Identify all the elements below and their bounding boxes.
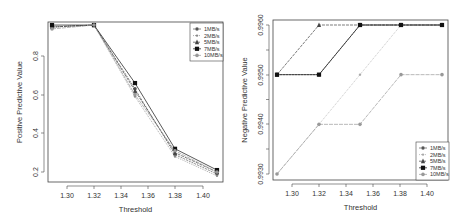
square-marker-icon xyxy=(440,23,444,27)
y-tick-label: 0.8 xyxy=(32,51,39,61)
square-marker-icon xyxy=(133,81,137,85)
y-tick-label: 0.9930 xyxy=(257,163,264,185)
legend-label: 10MB/s xyxy=(204,52,223,58)
legend-label: 5MB/s xyxy=(430,158,446,164)
dot-marker-icon xyxy=(216,175,218,177)
legend-label: 7MB/s xyxy=(204,46,220,52)
legend-label: 7MB/s xyxy=(430,165,446,171)
square-marker-icon xyxy=(195,47,199,51)
x-tick-label: 1.34 xyxy=(339,190,353,197)
dot-marker-icon xyxy=(359,73,361,75)
x-tick-label: 1.32 xyxy=(312,190,326,197)
x-tick-label: 1.30 xyxy=(60,192,74,199)
dot-marker-icon xyxy=(422,153,424,155)
circle-marker-icon xyxy=(421,173,425,177)
legend-label: 5MB/s xyxy=(204,39,220,45)
square-marker-icon xyxy=(421,166,425,170)
circle-marker-icon xyxy=(275,172,279,176)
legend-label: 1MB/s xyxy=(204,26,220,32)
chart-canvas: 1.301.321.341.361.381.400.20.40.60.8Thre… xyxy=(0,0,470,223)
x-tick-label: 1.38 xyxy=(168,192,182,199)
circle-marker-icon xyxy=(92,23,96,27)
square-marker-icon xyxy=(358,23,362,27)
y-tick-label: 0.6 xyxy=(32,90,39,100)
square-marker-icon xyxy=(275,73,279,77)
square-marker-icon xyxy=(317,73,321,77)
circle-marker-icon xyxy=(50,27,54,31)
npv-chart: 1.301.321.341.361.381.400.99300.99400.99… xyxy=(240,14,449,212)
dot-marker-icon xyxy=(196,34,198,36)
y-axis-title: Positive Predictive Value xyxy=(15,61,24,143)
y-tick-label: 0.9960 xyxy=(257,14,264,36)
square-marker-icon xyxy=(50,23,54,27)
series-line xyxy=(277,25,442,75)
x-tick-label: 1.30 xyxy=(285,190,299,197)
circle-marker-icon xyxy=(133,93,137,97)
circle-marker-icon xyxy=(399,73,403,77)
circle-marker-icon xyxy=(421,146,425,150)
square-marker-icon xyxy=(399,23,403,27)
legend-label: 2MB/s xyxy=(204,33,220,39)
dot-marker-icon xyxy=(174,155,176,157)
legend-label: 1MB/s xyxy=(430,145,446,151)
legend-label: 2MB/s xyxy=(430,152,446,158)
circle-marker-icon xyxy=(215,170,219,174)
x-axis-title: Threshold xyxy=(344,203,377,212)
circle-marker-icon xyxy=(195,27,199,31)
ppv-chart: 1.301.321.341.361.381.400.20.40.60.8Thre… xyxy=(15,22,223,214)
series-line xyxy=(277,25,442,75)
y-tick-label: 0.9950 xyxy=(257,64,264,86)
x-tick-label: 1.34 xyxy=(114,192,128,199)
circle-marker-icon xyxy=(317,123,321,127)
series-line xyxy=(277,25,442,75)
circle-marker-icon xyxy=(358,123,362,127)
x-tick-label: 1.40 xyxy=(196,192,210,199)
y-axis-title: Negative Predictive Value xyxy=(240,57,249,142)
legend-label: 10MB/s xyxy=(430,171,449,177)
y-tick-label: 0.4 xyxy=(32,128,39,138)
circle-marker-icon xyxy=(173,149,177,153)
x-tick-label: 1.36 xyxy=(366,190,380,197)
x-tick-label: 1.36 xyxy=(141,192,155,199)
y-tick-label: 0.2 xyxy=(32,167,39,177)
circle-marker-icon xyxy=(195,54,199,58)
y-tick-label: 0.9940 xyxy=(257,113,264,135)
circle-marker-icon xyxy=(440,73,444,77)
x-tick-label: 1.32 xyxy=(87,192,101,199)
x-tick-label: 1.38 xyxy=(393,190,407,197)
x-axis-title: Threshold xyxy=(119,205,152,214)
x-tick-label: 1.40 xyxy=(420,190,434,197)
